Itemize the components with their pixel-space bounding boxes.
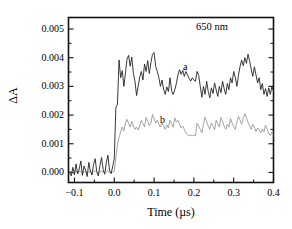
data-series (70, 53, 274, 177)
y-tick-label: 0.003 (20, 81, 64, 91)
y-tick-label: 0.000 (20, 167, 64, 177)
x-tick-label: 0.4 (251, 187, 292, 198)
y-tick-label: 0.002 (20, 110, 64, 120)
y-tick-label: 0.005 (20, 24, 64, 34)
series-label-b: b (160, 115, 165, 125)
x-axis-tick-labels: −0.10.00.10.20.30.4 (0, 187, 291, 201)
axis-ticks (69, 29, 274, 183)
series-label-a: a (183, 62, 187, 72)
series-line-a (70, 53, 274, 177)
wavelength-annotation: 650 nm (196, 21, 228, 32)
y-tick-label: 0.001 (20, 139, 64, 149)
transient-absorption-chart: ΔA 0.0000.0010.0020.0030.0040.005 −0.10.… (0, 0, 291, 229)
y-tick-label: 0.004 (20, 53, 64, 63)
plot-frame (69, 18, 274, 183)
x-axis-label: Time (µs) (68, 205, 274, 220)
